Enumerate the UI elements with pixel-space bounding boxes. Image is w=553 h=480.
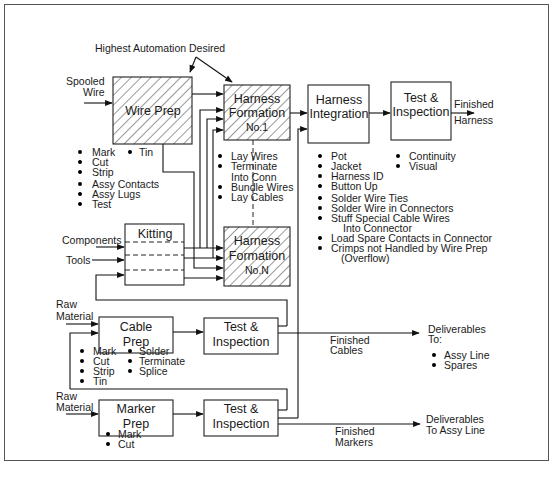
svg-text:Spares: Spares bbox=[444, 359, 477, 371]
svg-text:Tin: Tin bbox=[139, 146, 153, 158]
marker-prep-label-line1: Marker bbox=[117, 402, 156, 416]
harness-integration-label-line2: Integration bbox=[309, 107, 368, 121]
process-flow-diagram: Highest Automation Desired Spooled Wire … bbox=[0, 0, 553, 480]
svg-text:Visual: Visual bbox=[409, 160, 437, 172]
input-tools: Tools bbox=[66, 254, 91, 266]
wire-prep-label: Wire Prep bbox=[125, 104, 181, 118]
harness-formation-1-label-line3: No.1 bbox=[246, 121, 268, 133]
svg-text:Strip: Strip bbox=[92, 166, 114, 178]
test-inspection-marker-label-line2: Inspection bbox=[213, 417, 270, 431]
harness-integration-task-list: Pot Jacket Harness ID Button Up Solder W… bbox=[318, 150, 493, 264]
annotation-highest-automation: Highest Automation Desired bbox=[95, 42, 225, 54]
output-finished-harness-line2: Harness bbox=[454, 114, 493, 126]
harness-formation-task-list: Lay Wires Terminate Into Conn Bundle Wir… bbox=[218, 150, 293, 203]
kitting-label: Kitting bbox=[138, 227, 173, 241]
svg-text:To Assy Line: To Assy Line bbox=[426, 424, 485, 436]
svg-text:(Overflow): (Overflow) bbox=[341, 252, 389, 264]
svg-text:To:: To: bbox=[428, 333, 442, 345]
input-components: Components bbox=[62, 234, 122, 246]
deliverables-cables: Deliverables To: Assy Line Spares bbox=[428, 323, 490, 371]
test-inspection-cable-label-line1: Test & bbox=[224, 320, 259, 334]
test-inspection-harness-label-line2: Inspection bbox=[393, 105, 450, 119]
automation-arrow-wire-prep bbox=[190, 57, 196, 72]
input-raw-material-cable-line1: Raw bbox=[56, 298, 77, 310]
test-inspection-harness-task-list: Continuity Visual bbox=[396, 150, 456, 172]
harness-formation-1-label-line1: Harness bbox=[234, 92, 281, 106]
test-inspection-marker-label-line1: Test & bbox=[224, 402, 259, 416]
input-raw-material-cable-line2: Material bbox=[56, 310, 93, 322]
harness-formation-1-label-line2: Formation bbox=[229, 106, 285, 120]
caption-cutoff bbox=[4, 463, 549, 480]
svg-text:Cut: Cut bbox=[118, 438, 134, 450]
svg-text:Button Up: Button Up bbox=[331, 180, 378, 192]
test-inspection-harness-label-line1: Test & bbox=[404, 91, 439, 105]
svg-text:Tin: Tin bbox=[93, 375, 107, 387]
input-spooled-wire-line2: Wire bbox=[83, 86, 105, 98]
svg-text:Lay Cables: Lay Cables bbox=[231, 191, 284, 203]
output-finished-harness-line1: Finished bbox=[454, 98, 494, 110]
automation-arrow-harness-1 bbox=[196, 57, 232, 82]
harness-formation-n-label-line1: Harness bbox=[234, 234, 281, 248]
harness-integration-label-line1: Harness bbox=[316, 93, 363, 107]
svg-text:Test: Test bbox=[92, 198, 111, 210]
deliverables-markers: Deliverables To Assy Line bbox=[426, 413, 485, 436]
output-finished-cables-line2: Cables bbox=[330, 344, 363, 356]
wire-prep-task-list: Mark Cut Strip Assy Contacts Assy Lugs T… bbox=[78, 146, 159, 210]
harness-formation-n-label-line2: Formation bbox=[229, 249, 285, 263]
output-finished-markers-line2: Markers bbox=[335, 436, 373, 448]
arrow-feed-to-integration bbox=[298, 129, 307, 418]
test-inspection-cable-label-line2: Inspection bbox=[213, 335, 270, 349]
svg-text:Splice: Splice bbox=[139, 365, 168, 377]
input-raw-material-marker-line2: Material bbox=[56, 401, 93, 413]
cable-prep-label-line1: Cable bbox=[120, 320, 153, 334]
harness-formation-n-label-line3: No.N bbox=[245, 264, 269, 276]
